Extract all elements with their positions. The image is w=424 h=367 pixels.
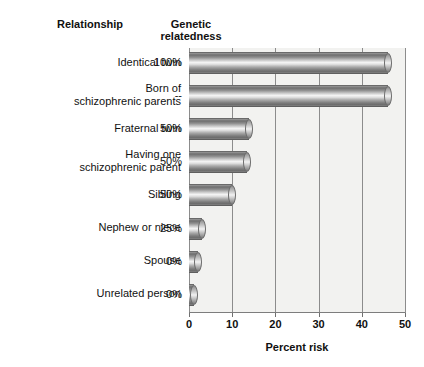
- bar-cap-7: [190, 285, 198, 305]
- genetic-relatedness-2: 50%: [152, 122, 182, 134]
- genetic-relatedness-6: 0%: [152, 255, 182, 267]
- gridline-50: [405, 48, 406, 313]
- x-tick-30: [319, 313, 320, 317]
- x-tick-label-30: 30: [307, 318, 331, 330]
- column-header-genetic-relatedness: Genetic relatedness: [152, 18, 230, 42]
- bar-chart: Relationship Genetic relatedness Percent…: [0, 0, 424, 367]
- bar-6: [189, 251, 198, 273]
- bar-3: [189, 151, 247, 173]
- x-tick-50: [405, 313, 406, 317]
- column-header-relationship: Relationship: [26, 18, 154, 30]
- genetic-relatedness-0: 100%: [152, 56, 182, 68]
- bar-7: [189, 284, 194, 306]
- bar-cap-5: [198, 219, 206, 239]
- genetic-relatedness-1: --: [152, 89, 182, 101]
- bar-0: [189, 52, 388, 74]
- x-tick-10: [232, 313, 233, 317]
- scan-artifact: [0, 0, 424, 14]
- x-axis-line: [189, 312, 405, 313]
- genetic-relatedness-4: 50%: [152, 188, 182, 200]
- x-tick-label-20: 20: [263, 318, 287, 330]
- bar-5: [189, 218, 202, 240]
- bar-cap-6: [194, 252, 202, 272]
- bar-2: [189, 118, 249, 140]
- x-tick-20: [275, 313, 276, 317]
- genetic-relatedness-7: 0%: [152, 288, 182, 300]
- x-tick-label-40: 40: [350, 318, 374, 330]
- genetic-relatedness-5: 25%: [152, 222, 182, 234]
- x-tick-label-50: 50: [393, 318, 417, 330]
- x-tick-0: [189, 313, 190, 317]
- bar-cap-1: [384, 86, 392, 106]
- x-tick-label-0: 0: [177, 318, 201, 330]
- genetic-relatedness-3: 50%: [152, 155, 182, 167]
- x-tick-label-10: 10: [220, 318, 244, 330]
- bar-1: [189, 85, 388, 107]
- bar-cap-0: [384, 53, 392, 73]
- bar-4: [189, 184, 232, 206]
- x-tick-40: [362, 313, 363, 317]
- x-axis-title: Percent risk: [189, 341, 405, 353]
